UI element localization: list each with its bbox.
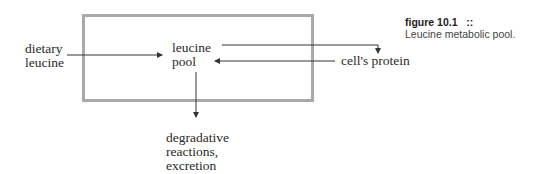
figure-caption: figure 10.1 :: Leucine metabolic pool. (405, 16, 515, 40)
node-cells-protein: cell's protein (341, 54, 410, 68)
caption-text: Leucine metabolic pool. (405, 28, 515, 40)
arrow-pool-to-protein (222, 45, 378, 53)
node-dietary-leucine: dietary leucine (25, 42, 64, 70)
node-leucine-pool: leucine pool (172, 41, 211, 69)
figure-label: figure 10.1 (405, 16, 458, 28)
node-degradation: degradative reactions, excretion (166, 131, 229, 173)
caption-separator: :: (466, 16, 473, 28)
